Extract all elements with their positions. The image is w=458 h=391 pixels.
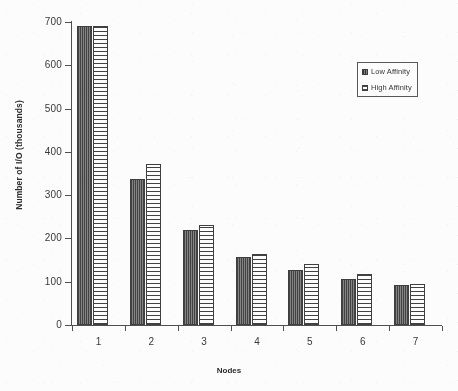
y-axis-tick: [65, 282, 71, 283]
y-axis-tick: [65, 238, 71, 239]
x-axis-tick: [125, 326, 126, 331]
low-affinity-swatch: [362, 69, 368, 75]
y-axis-tick: [65, 195, 71, 196]
bar-high-affinity-node-3: [199, 225, 214, 325]
x-axis-tick: [231, 326, 232, 331]
y-axis-tick: [65, 152, 71, 153]
legend-item-high-affinity: High Affinity: [362, 83, 412, 92]
x-axis-title: Nodes: [0, 366, 458, 375]
x-axis-tick: [72, 326, 73, 331]
x-axis-tick: [336, 326, 337, 331]
y-axis-tick: [65, 109, 71, 110]
y-axis-tick-label: 200: [22, 232, 62, 243]
y-axis-title: Number of I/O (thousands): [14, 80, 24, 230]
x-axis-line: [71, 325, 442, 326]
y-axis-tick-label: 0: [22, 319, 62, 330]
y-axis-line: [71, 21, 72, 326]
y-axis-tick-label: 500: [22, 103, 62, 114]
y-axis-tick: [65, 22, 71, 23]
y-axis-tick-label: 700: [22, 16, 62, 27]
y-axis-tick-label: 300: [22, 189, 62, 200]
x-axis-tick-label: 5: [295, 336, 325, 347]
x-axis-tick-label: 1: [83, 336, 113, 347]
x-axis-tick-label: 2: [136, 336, 166, 347]
bar-high-affinity-node-4: [252, 254, 267, 325]
x-axis-tick-label: 6: [348, 336, 378, 347]
x-axis-tick: [442, 326, 443, 331]
bar-low-affinity-node-7: [394, 285, 409, 325]
legend-label-high-affinity: High Affinity: [371, 83, 412, 92]
bar-high-affinity-node-7: [410, 284, 425, 325]
bar-low-affinity-node-3: [183, 230, 198, 325]
y-axis-tick-label: 400: [22, 146, 62, 157]
bar-low-affinity-node-6: [341, 279, 356, 325]
x-axis-tick-label: 3: [189, 336, 219, 347]
y-axis-tick: [65, 65, 71, 66]
high-affinity-swatch: [362, 85, 368, 91]
x-axis-tick: [389, 326, 390, 331]
y-axis-tick-label: 100: [22, 276, 62, 287]
y-axis-tick-label: 600: [22, 59, 62, 70]
x-axis-tick-label: 7: [401, 336, 431, 347]
bar-high-affinity-node-6: [357, 274, 372, 325]
bar-low-affinity-node-4: [236, 257, 251, 325]
bar-chart: 7006005004003002001000 1234567 Number of…: [0, 0, 458, 391]
bar-high-affinity-node-5: [304, 264, 319, 325]
x-axis-tick: [283, 326, 284, 331]
legend-item-low-affinity: Low Affinity: [362, 67, 412, 76]
x-axis-tick: [178, 326, 179, 331]
bar-high-affinity-node-1: [93, 26, 108, 325]
bar-high-affinity-node-2: [146, 164, 161, 325]
x-axis-tick-label: 4: [242, 336, 272, 347]
legend-label-low-affinity: Low Affinity: [371, 67, 410, 76]
chart-legend: Low Affinity High Affinity: [357, 62, 418, 97]
bar-low-affinity-node-5: [288, 270, 303, 325]
bar-low-affinity-node-2: [130, 179, 145, 325]
bar-low-affinity-node-1: [77, 26, 92, 325]
y-axis-tick: [65, 325, 71, 326]
